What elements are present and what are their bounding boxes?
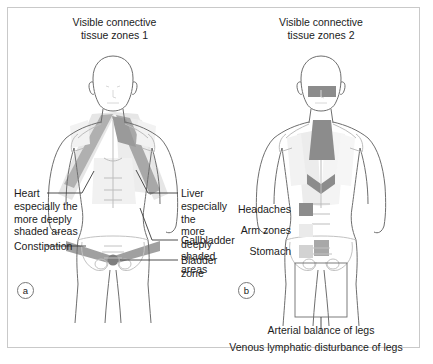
- zone-sternum: [309, 120, 335, 160]
- panel-a-leader-lines: [8, 8, 221, 349]
- outline-arm-left-inner: [274, 148, 282, 204]
- legend-label-headaches: Headaches: [238, 202, 291, 217]
- label-liver: Liver: [181, 187, 204, 200]
- label-heart: Heart: [14, 187, 40, 200]
- panel-b: Visible connective tissue zones 2: [221, 8, 421, 347]
- panel-a: Visible connective tissue zones 1: [8, 8, 221, 347]
- pelvis-foramen-right: [327, 259, 339, 269]
- legend-swatch-headaches: [299, 203, 313, 216]
- panel-b-letter: b: [238, 282, 255, 299]
- legend-item-stomach: Stomach: [221, 244, 313, 259]
- leader-heart: [47, 171, 94, 193]
- panel-a-letter: a: [17, 282, 34, 299]
- label-bladder-zone: Bladder zone: [181, 254, 221, 279]
- outline-leg-left-outer: [283, 284, 286, 326]
- caption-venous-lymphatic: Venous lymphatic disturbance of legs: [211, 341, 421, 354]
- outline-leg-right-inner: [324, 270, 329, 326]
- label-constipation: Constipation: [14, 240, 72, 253]
- legend-swatch-stomach: [299, 245, 313, 258]
- zone-headache-band: [308, 86, 336, 97]
- label-heart-detail: especially the more deeply shaded areas: [14, 200, 78, 238]
- outline-hand-right: [374, 226, 384, 233]
- caption-arterial-balance: Arterial balance of legs: [221, 324, 421, 337]
- panel-b-body-figure: [221, 8, 421, 349]
- outline-neck-left: [309, 109, 311, 123]
- outline-arm-right-inner: [360, 148, 368, 204]
- leader-gallbladder: [140, 208, 178, 240]
- outline-hip-right: [356, 240, 357, 284]
- outline-leg-right-outer: [356, 284, 359, 326]
- legs-zone-rectangle: [295, 263, 347, 317]
- outline-arm-right-outer: [368, 138, 386, 226]
- legend-label-arm-zones: Arm zones: [241, 223, 291, 238]
- figure-frame: Visible connective tissue zones 1: [7, 7, 420, 348]
- outline-neck-right: [331, 109, 333, 123]
- outline-leg-left-inner: [313, 270, 318, 326]
- legend-label-stomach: Stomach: [250, 244, 291, 259]
- legend-swatch-arm-zones: [299, 224, 313, 237]
- pelvis-foramen-left: [303, 259, 315, 269]
- legend-item-headaches: Headaches: [221, 202, 313, 217]
- leader-liver: [136, 170, 178, 193]
- pelvis-ilium-right: [326, 242, 352, 271]
- legend-item-arm-zones: Arm zones: [221, 223, 313, 238]
